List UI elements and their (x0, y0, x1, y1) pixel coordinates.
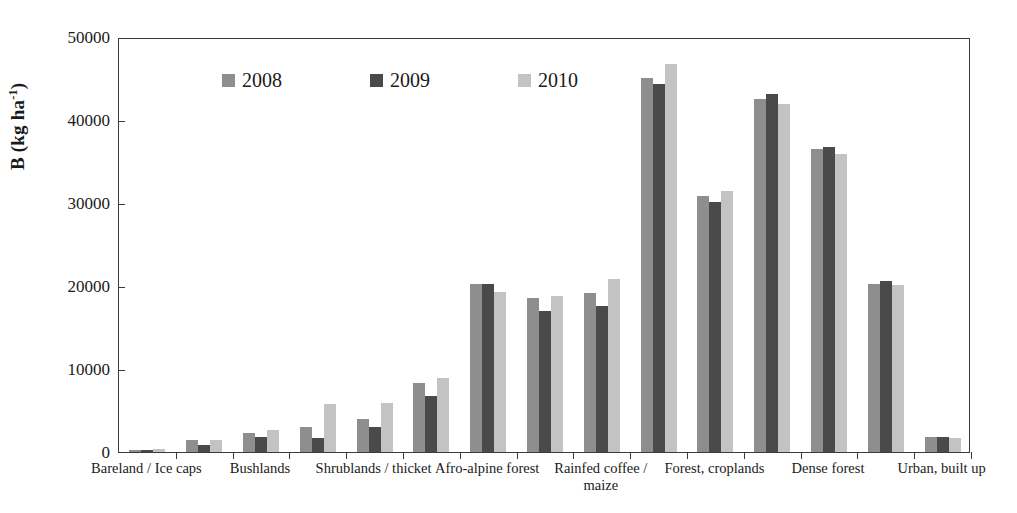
bar-group (357, 39, 393, 452)
x-axis-tick-mark (517, 452, 518, 459)
x-axis-tick-mark (403, 452, 404, 459)
figure: B (kg ha-1) 50000400003000020000100000 B… (0, 0, 1017, 513)
legend-item: 2009 (370, 70, 430, 90)
bar-2010 (778, 104, 790, 452)
bar-2008 (811, 149, 823, 452)
bar-2009 (482, 284, 494, 452)
bar-2010 (381, 403, 393, 452)
y-axis-tick-mark (118, 370, 125, 371)
bar-2009 (937, 437, 949, 452)
bar-group (754, 39, 790, 452)
bar-2009 (141, 450, 153, 452)
bar-2008 (641, 78, 653, 452)
y-axis-tick-label: 50000 (68, 29, 111, 46)
x-axis-tick-mark (630, 452, 631, 459)
y-axis-tick-label: 40000 (68, 112, 111, 129)
x-axis-tick-mark (233, 452, 234, 459)
bar-2010 (608, 279, 620, 452)
plot-area (118, 38, 970, 453)
y-axis-tick-label: 20000 (68, 278, 111, 295)
bar-group (470, 39, 506, 452)
bar-2008 (357, 419, 369, 452)
bar-group (527, 39, 563, 452)
bar-2009 (709, 202, 721, 452)
x-axis-tick-mark (346, 452, 347, 459)
x-axis-tick-mark (687, 452, 688, 459)
bar-group (641, 39, 677, 452)
x-axis-tick-mark (971, 452, 972, 459)
bar-2009 (653, 84, 665, 452)
legend-swatch-icon (370, 74, 383, 87)
bar-2008 (243, 433, 255, 452)
bar-2010 (210, 440, 222, 452)
bar-group (243, 39, 279, 452)
bar-2008 (754, 99, 766, 452)
bar-2008 (925, 437, 937, 452)
bar-2009 (539, 311, 551, 453)
bar-group (925, 39, 961, 452)
x-axis-tick-mark (460, 452, 461, 459)
bar-2008 (470, 284, 482, 452)
legend: 200820092010 (222, 70, 666, 90)
bar-2010 (437, 378, 449, 452)
bar-group (584, 39, 620, 452)
bar-2009 (823, 147, 835, 452)
bar-2010 (949, 438, 961, 452)
bar-group (868, 39, 904, 452)
bar-2008 (413, 383, 425, 452)
legend-item: 2008 (222, 70, 282, 90)
bar-group (697, 39, 733, 452)
x-axis-tick-mark (857, 452, 858, 459)
bar-2010 (721, 191, 733, 452)
legend-swatch-icon (518, 74, 531, 87)
legend-label: 2010 (538, 70, 578, 90)
bar-2010 (665, 64, 677, 452)
x-axis-tick-mark (744, 452, 745, 459)
y-axis-ticks: 50000400003000020000100000 (0, 0, 118, 513)
bar-2009 (425, 396, 437, 452)
bar-2009 (596, 306, 608, 452)
bar-2010 (267, 430, 279, 452)
bar-2008 (300, 427, 312, 452)
bar-2010 (494, 292, 506, 452)
legend-label: 2009 (390, 70, 430, 90)
legend-item: 2010 (518, 70, 578, 90)
bar-2008 (584, 293, 596, 452)
y-axis-tick-mark (118, 204, 125, 205)
bar-2010 (153, 449, 165, 452)
legend-swatch-icon (222, 74, 235, 87)
bar-2010 (892, 285, 904, 452)
x-axis-tick-mark (573, 452, 574, 459)
x-axis-tick-mark (914, 452, 915, 459)
bar-2008 (186, 440, 198, 452)
bar-2010 (835, 154, 847, 452)
y-axis-tick-label: 0 (102, 444, 111, 461)
bar-group (300, 39, 336, 452)
bar-2008 (868, 284, 880, 452)
x-axis-category-label: Urban, built up (862, 460, 1017, 477)
y-axis-tick-mark (118, 287, 125, 288)
bar-2009 (766, 94, 778, 452)
bar-group (811, 39, 847, 452)
y-axis-tick-mark (118, 121, 125, 122)
bar-2009 (369, 427, 381, 452)
bar-2010 (324, 404, 336, 452)
x-axis-tick-mark (176, 452, 177, 459)
x-axis-tick-mark (289, 452, 290, 459)
legend-label: 2008 (242, 70, 282, 90)
bar-2008 (129, 450, 141, 452)
x-axis-tick-mark (801, 452, 802, 459)
bar-group (129, 39, 165, 452)
bar-2008 (527, 298, 539, 452)
bar-2009 (255, 437, 267, 452)
bar-2009 (880, 281, 892, 452)
y-axis-tick-label: 30000 (68, 195, 111, 212)
bar-group (186, 39, 222, 452)
bar-2009 (198, 445, 210, 452)
y-axis-tick-label: 10000 (68, 361, 111, 378)
bar-group (413, 39, 449, 452)
bar-2010 (551, 296, 563, 452)
bar-2009 (312, 438, 324, 452)
bar-2008 (697, 196, 709, 452)
